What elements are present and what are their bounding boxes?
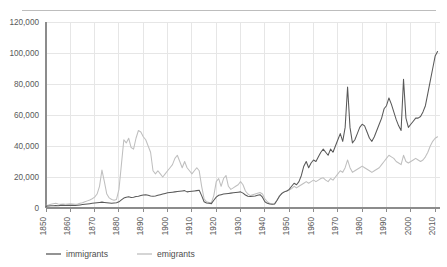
- chart-canvas: 020,00040,00060,00080,000100,000120,000 …: [0, 0, 447, 267]
- x-axis-tick-label: 1940: [258, 217, 267, 236]
- x-axis-tick-label: 1930: [234, 217, 243, 236]
- y-axis-tick-label: 120,000: [9, 18, 39, 27]
- x-axis-tick-label: 1880: [112, 217, 121, 236]
- x-axis-tick-label: 1980: [355, 217, 364, 236]
- series-line-emigrants: [46, 131, 438, 206]
- y-axis-tick-label: 100,000: [9, 49, 39, 58]
- data-series-group: [46, 51, 438, 206]
- y-axis-tick-label: 20,000: [14, 173, 39, 182]
- chart-legend: immigrantsemigrants: [46, 249, 195, 259]
- y-axis-tick-labels: 020,00040,00060,00080,000100,000120,000: [9, 18, 39, 213]
- x-axis-tick-label: 2010: [428, 217, 437, 236]
- y-axis-tick-label: 40,000: [14, 142, 39, 151]
- x-axis-tick-label: 1900: [161, 217, 170, 236]
- x-axis-tick-label: 1960: [307, 217, 316, 236]
- y-axis-tick-label: 0: [34, 204, 39, 213]
- x-axis-tick-label: 1870: [88, 217, 97, 236]
- x-axis-tick-label: 1850: [39, 217, 48, 236]
- gridlines-group: [46, 22, 440, 208]
- x-axis-tick-label: 1890: [136, 217, 145, 236]
- x-axis-tick-label: 1950: [282, 217, 291, 236]
- x-axis-tick-label: 1860: [63, 217, 72, 236]
- x-axis-tickmarks: [46, 208, 435, 212]
- y-axis-tick-label: 60,000: [14, 111, 39, 120]
- x-axis-tick-label: 2000: [404, 217, 413, 236]
- legend-label-immigrants: immigrants: [66, 249, 108, 259]
- x-axis-tick-label: 1920: [209, 217, 218, 236]
- line-chart: 020,00040,00060,00080,000100,000120,000 …: [0, 0, 447, 267]
- x-axis-tick-label: 1970: [331, 217, 340, 236]
- y-axis-tick-label: 80,000: [14, 80, 39, 89]
- x-axis-tick-label: 1910: [185, 217, 194, 236]
- x-axis-tick-label: 1990: [379, 217, 388, 236]
- legend-label-emigrants: emigrants: [157, 249, 195, 259]
- x-axis-tick-labels: 1850186018701880189019001910192019301940…: [39, 217, 437, 236]
